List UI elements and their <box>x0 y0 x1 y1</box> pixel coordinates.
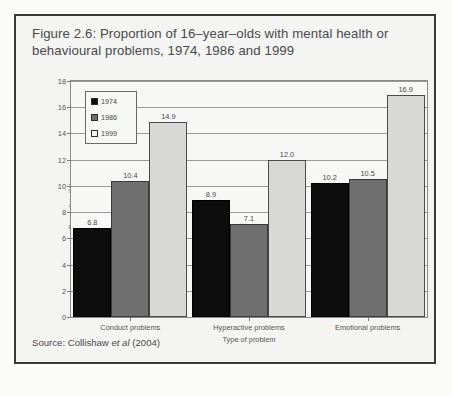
y-tick-mark <box>67 107 71 108</box>
gridline <box>71 81 427 82</box>
chart-plot-wrapper: Proportion (%) 024681012141618 6.810.414… <box>56 80 428 332</box>
legend-item-label: 1974 <box>101 97 117 106</box>
y-tick-mark <box>67 238 71 239</box>
bar-value-label: 14.9 <box>161 112 175 121</box>
y-tick-label: 6 <box>62 234 66 243</box>
chart-legend: 197419861999 <box>85 91 137 144</box>
bar-value-label: 12.0 <box>280 150 294 159</box>
y-tick-label: 4 <box>62 260 66 269</box>
category-label: Emotional problems <box>335 323 400 332</box>
legend-item-1999: 1999 <box>91 129 132 138</box>
y-tick-mark <box>67 186 71 187</box>
bar-value-label: 10.4 <box>123 171 137 180</box>
figure-title-line-2: behavioural problems, 1974, 1986 and 199… <box>32 42 422 59</box>
category-label: Hyperactive problems <box>213 323 284 332</box>
bar-1999-2: 16.9 <box>387 95 425 317</box>
y-tick-mark <box>67 291 71 292</box>
legend-item-label: 1999 <box>101 129 117 138</box>
black-swatch-icon <box>91 98 98 105</box>
y-tick-label: 12 <box>58 155 66 164</box>
y-tick-mark <box>67 160 71 161</box>
y-tick-label: 14 <box>58 129 66 138</box>
bar-value-label: 16.9 <box>398 85 412 94</box>
bar-1986-1: 7.1 <box>230 224 268 317</box>
bar-value-label: 8.9 <box>206 190 216 199</box>
source-note: Source: Collishaw et al (2004) <box>32 337 160 348</box>
bar-1974-1: 8.9 <box>192 200 230 317</box>
y-tick-mark <box>67 265 71 266</box>
y-tick-label: 10 <box>58 181 66 190</box>
source-suffix: (2004) <box>130 337 160 348</box>
source-italic: et al <box>111 337 129 348</box>
y-tick-mark <box>67 133 71 134</box>
bar-1986-0: 10.4 <box>111 181 149 317</box>
y-tick-label: 18 <box>58 77 66 86</box>
bar-value-label: 10.2 <box>322 173 336 182</box>
legend-item-label: 1986 <box>101 113 117 122</box>
x-axis-title: Type of problem <box>223 335 276 344</box>
bar-1999-1: 12.0 <box>268 160 306 317</box>
y-tick-mark <box>67 81 71 82</box>
y-tick-label: 2 <box>62 286 66 295</box>
figure-frame: Figure 2.6: Proportion of 16–year–olds w… <box>14 14 436 364</box>
bar-value-label: 10.5 <box>360 169 374 178</box>
y-tick-label: 16 <box>58 103 66 112</box>
bar-1974-0: 6.8 <box>73 228 111 317</box>
chart-plot-area: 024681012141618 6.810.414.98.97.112.010.… <box>70 80 428 318</box>
figure-title: Figure 2.6: Proportion of 16–year–olds w… <box>32 25 422 59</box>
category-label: Conduct problems <box>100 323 160 332</box>
gridline <box>71 160 427 161</box>
bar-1974-2: 10.2 <box>311 183 349 317</box>
x-tick-mark <box>368 317 369 321</box>
bar-1999-0: 14.9 <box>149 122 187 317</box>
figure-title-line-1: Figure 2.6: Proportion of 16–year–olds w… <box>32 26 388 41</box>
y-tick-mark <box>67 317 71 318</box>
gray-swatch-icon <box>91 114 98 121</box>
bar-1986-2: 10.5 <box>349 179 387 317</box>
y-tick-mark <box>67 212 71 213</box>
source-prefix: Source: Collishaw <box>32 337 111 348</box>
x-tick-mark <box>249 317 250 321</box>
y-tick-label: 8 <box>62 208 66 217</box>
bar-value-label: 7.1 <box>244 214 254 223</box>
legend-item-1986: 1986 <box>91 113 132 122</box>
white-swatch-icon <box>91 130 98 137</box>
x-tick-mark <box>130 317 131 321</box>
legend-item-1974: 1974 <box>91 97 132 106</box>
bar-value-label: 6.8 <box>87 218 97 227</box>
y-tick-label: 0 <box>62 313 66 322</box>
